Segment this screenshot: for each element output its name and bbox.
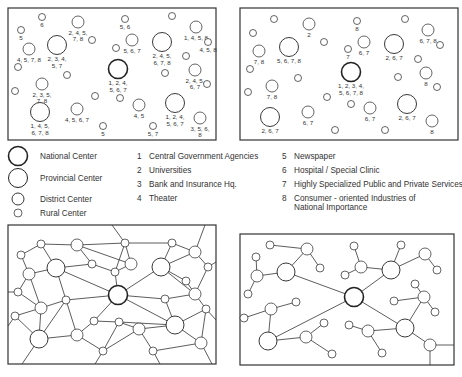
district-center-node: [265, 303, 277, 315]
rural-center-node: [149, 347, 157, 355]
rural-center-node: [89, 37, 96, 44]
provincial-center-node: [30, 330, 48, 348]
rural-center-node: [162, 70, 169, 77]
provincial-center-node: [166, 94, 185, 113]
rural-center-node: [382, 127, 389, 134]
function-codes-label: 6, 7: [303, 119, 314, 126]
rural-center-node: [37, 240, 45, 248]
rural-center-node: [204, 81, 211, 88]
function-codes-label: 7: [346, 53, 350, 60]
provincial-center-node: [396, 319, 414, 337]
function-label-line2: National Importance: [294, 203, 368, 212]
function-codes-label: 7, 8: [254, 58, 265, 65]
network-link: [153, 343, 201, 351]
legend-symbol-district-center-icon: [12, 193, 24, 205]
rural-center-node: [345, 46, 352, 53]
function-label: Theater: [149, 194, 177, 203]
rural-center-node: [240, 314, 248, 322]
district-center-node: [251, 270, 263, 282]
rural-center-node: [39, 14, 46, 21]
district-center-node: [35, 302, 47, 314]
district-center-node: [355, 261, 367, 273]
provincial-center-node: [382, 261, 400, 279]
function-number: 3: [137, 180, 142, 189]
function-codes-label: 6, 7, 8: [153, 59, 171, 66]
rural-center-node: [150, 123, 157, 130]
rural-center-node: [92, 93, 99, 100]
rural-center-node: [324, 94, 331, 101]
district-center-node: [194, 112, 206, 124]
rural-center-node: [12, 88, 19, 95]
rural-center-node: [168, 239, 176, 247]
provincial-center-node: [152, 258, 170, 276]
function-codes-label: 5, 6, 7: [109, 86, 127, 93]
function-codes-label: 4, 5, 6, 7: [65, 116, 90, 123]
function-codes-label: 7, 8: [73, 35, 84, 42]
function-codes-label: 2: [307, 31, 311, 38]
rural-center-node: [433, 266, 441, 274]
function-codes-label: 6: [40, 21, 44, 28]
district-center-node: [71, 103, 83, 115]
function-codes-label: 5, 6, 7, 8: [277, 57, 302, 64]
district-center-node: [23, 43, 35, 55]
legend-label: National Center: [40, 152, 97, 161]
legend-label: Provincial Center: [40, 174, 103, 183]
provincial-center-node: [153, 33, 172, 52]
rural-center-node: [113, 45, 120, 52]
legend-symbol-rural-center-icon: [14, 209, 22, 217]
provincial-center-node: [280, 38, 299, 57]
rural-center-node: [111, 268, 119, 276]
rural-center-node: [99, 347, 107, 355]
function-label: Consumer - oriented Industries of: [294, 194, 416, 203]
function-codes-label: 5, 7: [148, 130, 159, 137]
network-link: [77, 245, 131, 264]
rural-center-node: [205, 39, 212, 46]
district-center-node: [253, 45, 265, 57]
rural-center-node: [395, 74, 402, 81]
district-center-node: [195, 337, 207, 349]
rural-center-node: [11, 312, 19, 320]
function-number: 2: [137, 166, 142, 175]
legend: National CenterProvincial CenterDistrict…: [9, 147, 462, 219]
rural-center-node: [266, 241, 274, 249]
district-center-node: [266, 80, 278, 92]
rural-center-node: [90, 317, 98, 325]
district-center-node: [126, 34, 138, 46]
district-center-node: [419, 248, 431, 260]
national-center-node: [342, 63, 361, 82]
rural-center-node: [244, 290, 252, 298]
rural-center-node: [292, 298, 300, 306]
function-codes-label: 2, 6, 7: [261, 127, 279, 134]
rural-center-node: [295, 75, 302, 82]
function-codes-label: 8: [424, 80, 428, 87]
rural-center-node: [341, 271, 349, 279]
national-center-node: [345, 288, 364, 307]
rural-center-node: [437, 42, 444, 49]
district-center-node: [190, 21, 202, 33]
rural-center-node: [348, 101, 355, 108]
rural-center-node: [247, 66, 254, 73]
function-label: Hospital / Special Clinic: [294, 166, 380, 175]
provincial-center-node: [259, 332, 277, 350]
function-number: 5: [282, 152, 287, 161]
district-center-node: [72, 16, 84, 28]
district-center-node: [71, 329, 83, 341]
rural-center-node: [161, 295, 169, 303]
function-codes-label: 2, 6, 7: [385, 54, 403, 61]
rural-center-node: [62, 296, 70, 304]
rural-center-node: [250, 30, 257, 37]
district-center-node: [358, 36, 370, 48]
district-center-node: [418, 291, 430, 303]
rural-center-node: [14, 288, 22, 296]
function-label: Central Government Agencies: [149, 152, 258, 161]
rural-center-node: [415, 56, 422, 63]
district-center-node: [71, 239, 83, 251]
district-center-node: [362, 325, 374, 337]
function-codes-label: 8: [355, 25, 359, 32]
map-left-concentrated-functions: 652, 4, 5,7, 84, 5, 7, 82, 3, 4,5, 75, 6…: [8, 8, 217, 140]
rural-center-node: [328, 350, 336, 358]
district-center-node: [424, 339, 436, 351]
rural-center-node: [17, 251, 25, 259]
rural-center-node: [402, 16, 409, 23]
rural-center-node: [320, 319, 328, 327]
